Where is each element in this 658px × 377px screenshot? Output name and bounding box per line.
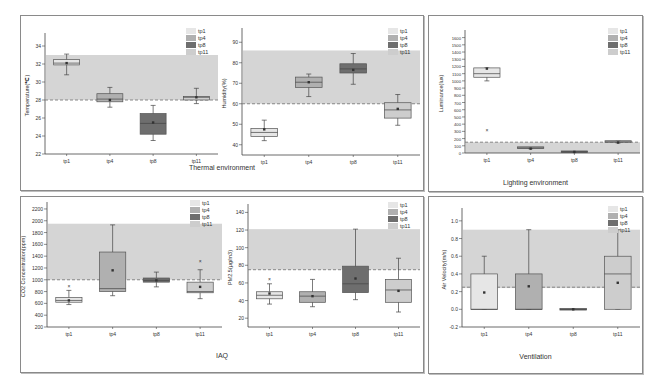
box-body	[515, 274, 542, 309]
y-tick-label: 28	[35, 97, 41, 103]
y-tick-label: 70	[232, 80, 238, 86]
legend-swatch	[388, 28, 398, 34]
mean-marker	[617, 141, 619, 143]
chart-air_velocity: -0.20.00.20.40.60.81.0Air Velocity(m/s)t…	[441, 206, 640, 337]
outlier-marker: ×	[199, 258, 202, 264]
legend-swatch	[608, 35, 618, 41]
x-tick-label: tp4	[309, 331, 316, 337]
y-tick-label: 1.0	[451, 218, 458, 224]
mean-marker	[111, 269, 113, 271]
box-tp1: ×	[474, 67, 500, 133]
y-tick-label: 60	[232, 101, 238, 107]
y-tick-label: 700	[454, 101, 462, 106]
legend-label: tp4	[620, 35, 628, 41]
legend-swatch	[608, 28, 618, 34]
y-tick-label: 100	[454, 144, 462, 149]
x-tick-label: tp4	[525, 331, 532, 337]
mean-marker	[483, 291, 485, 293]
mean-marker	[529, 147, 531, 149]
x-tick-label: tp4	[305, 159, 312, 165]
legend-swatch	[186, 42, 196, 48]
legend: tp1tp4tp8tp11	[388, 202, 410, 229]
legend-label: tp11	[620, 227, 630, 233]
box-body	[384, 103, 411, 118]
y-tick-label: 500	[454, 115, 462, 120]
box-tp1	[251, 120, 278, 140]
legend-label: tp4	[400, 209, 408, 215]
legend-label: tp4	[198, 35, 206, 41]
legend-label: tp8	[198, 42, 206, 48]
y-tick-label: 30	[35, 79, 41, 85]
mean-marker	[311, 295, 313, 297]
legend-swatch	[608, 42, 618, 48]
x-tick-label: tp11	[195, 331, 205, 337]
legend-swatch	[388, 209, 398, 215]
mean-marker	[352, 69, 354, 71]
legend-swatch	[186, 28, 196, 34]
y-axis-label: Air Velocity(m/s)	[441, 249, 447, 289]
box-body	[100, 252, 126, 292]
x-tick-label: tp4	[109, 331, 116, 337]
y-tick-label: 2000	[32, 218, 43, 224]
y-axis-label: Luminance(lux)	[438, 75, 444, 113]
mean-marker	[199, 286, 201, 288]
mean-marker	[109, 99, 111, 101]
legend-swatch	[388, 216, 398, 222]
mean-marker	[486, 67, 488, 69]
y-tick-label: 40	[238, 298, 244, 304]
mean-marker	[308, 81, 310, 83]
x-tick-label: tp1	[63, 158, 70, 164]
y-tick-label: 200	[35, 324, 44, 330]
legend-swatch	[388, 223, 398, 229]
mean-marker	[65, 62, 67, 64]
comfort-band	[48, 224, 222, 280]
y-axis-label: Temperature(℃)	[24, 75, 30, 117]
legend-label: tp8	[620, 220, 628, 226]
mean-marker	[397, 108, 399, 110]
comfort-band	[249, 229, 420, 270]
y-tick-label: 1600	[452, 36, 462, 41]
legend-label: tp8	[202, 214, 210, 220]
legend-label: tp1	[620, 206, 628, 212]
mean-marker	[573, 151, 575, 153]
y-tick-label: 1500	[452, 43, 462, 48]
legend-label: tp11	[400, 223, 410, 229]
mean-marker	[195, 96, 197, 98]
y-tick-label: 200	[454, 137, 462, 142]
y-tick-label: 50	[232, 121, 238, 127]
y-tick-label: 1000	[452, 79, 462, 84]
legend-label: tp1	[400, 202, 408, 208]
comfort-band	[243, 50, 420, 103]
legend-swatch	[190, 207, 200, 213]
mean-marker	[572, 308, 574, 310]
outlier-marker: ×	[67, 283, 70, 289]
chart-temperature: 22242628303234Temperature(℃)tp1tp4tp8tp1…	[24, 28, 218, 164]
y-tick-label: 24	[35, 133, 41, 139]
legend: tp1tp4tp8tp11	[388, 28, 410, 55]
legend-label: tp4	[202, 207, 210, 213]
outlier-marker: ×	[268, 276, 271, 282]
chart-humidity: 405060708090Humidity(%)tp1tp4tp8tp11tp1t…	[221, 28, 420, 165]
y-tick-label: 1200	[452, 64, 462, 69]
legend-swatch	[388, 202, 398, 208]
box-body	[340, 64, 367, 73]
charts-layer: 22242628303234Temperature(℃)tp1tp4tp8tp1…	[0, 0, 658, 377]
y-tick-label: 800	[35, 289, 44, 295]
legend-label: tp1	[202, 200, 210, 206]
mean-marker	[397, 290, 399, 292]
comfort-band	[466, 142, 640, 153]
y-tick-label: 800	[454, 93, 462, 98]
legend-swatch	[388, 42, 398, 48]
legend-label: tp11	[400, 49, 410, 55]
legend: tp1tp4tp8tp11	[608, 28, 630, 55]
y-tick-label: 1100	[452, 72, 462, 77]
y-tick-label: 600	[35, 300, 44, 306]
x-tick-label: tp11	[613, 331, 623, 337]
y-tick-label: 34	[35, 43, 41, 49]
y-tick-label: 1300	[452, 57, 462, 62]
mean-marker	[354, 277, 356, 279]
mean-marker	[68, 299, 70, 301]
outlier-marker: ×	[485, 127, 488, 133]
x-tick-label: tp1	[261, 159, 268, 165]
y-tick-label: 140	[236, 209, 245, 215]
